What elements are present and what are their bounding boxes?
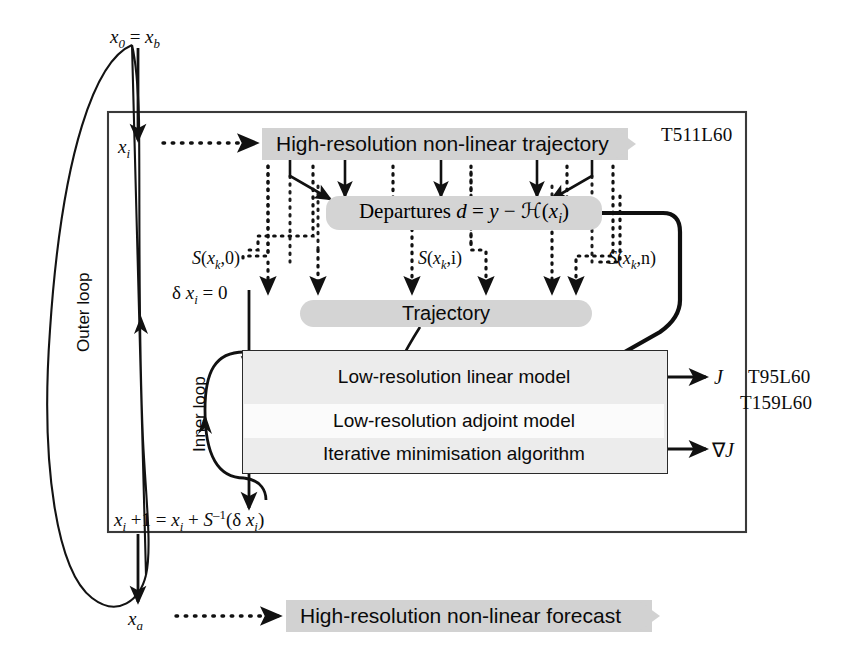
pill-departures-label: Departures d = y − ℋ(xi) [359, 199, 569, 227]
band-high-res-trajectory-label: High-resolution non-linear trajectory [276, 132, 609, 156]
label-resolution-outer: T511L60 [661, 124, 732, 146]
label-operator-s-i: S(xk,i) [418, 248, 462, 273]
inner-box-line-adjoint-model: Low-resolution adjoint model [242, 410, 666, 432]
inner-box-line-minimisation: Iterative minimisation algorithm [242, 443, 666, 465]
label-analysis-state: xa [128, 608, 143, 634]
band-high-res-forecast-label: High-resolution non-linear forecast [300, 604, 621, 628]
label-outer-loop: Outer loop [74, 273, 94, 352]
label-inner-loop: Inner loop [190, 376, 210, 452]
inner-box-line-linear-model: Low-resolution linear model [242, 366, 666, 388]
label-output-gradient: ∇J [712, 438, 734, 462]
diagram-vectors [0, 0, 845, 658]
label-resolution-inner-second: T159L60 [740, 392, 812, 414]
label-operator-s-n: S(xk,n) [608, 248, 656, 273]
band-high-res-forecast: High-resolution non-linear forecast [286, 600, 652, 632]
band-high-res-trajectory-arrowhead [614, 128, 636, 160]
pill-trajectory: Trajectory [300, 300, 592, 327]
diagram-canvas: High-resolution non-linear trajectory De… [0, 0, 845, 658]
label-state-update: xi +1 = xi + S–1(δ xi) [114, 507, 264, 535]
pill-departures: Departures d = y − ℋ(xi) [326, 196, 602, 230]
pill-trajectory-label: Trajectory [402, 302, 490, 325]
label-operator-s-0: S(xk,0) [192, 248, 240, 273]
label-increment-init: δ xi = 0 [172, 282, 227, 308]
label-output-cost: J [714, 366, 723, 389]
band-high-res-forecast-arrowhead [638, 600, 660, 632]
label-resolution-inner-first: T95L60 [748, 366, 810, 388]
label-current-state: xi [118, 136, 130, 162]
band-high-res-trajectory: High-resolution non-linear trajectory [262, 128, 628, 160]
label-initial-state: x0 = xb [110, 26, 160, 52]
